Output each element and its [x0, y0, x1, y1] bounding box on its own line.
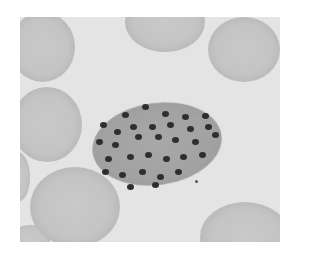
micrograph — [20, 17, 280, 242]
nucleus — [105, 156, 112, 162]
red-blood-cell — [208, 17, 280, 82]
nucleus — [180, 154, 187, 160]
nucleus — [142, 104, 149, 110]
nucleus — [119, 172, 126, 178]
nucleus — [114, 129, 121, 135]
nucleus — [127, 154, 134, 160]
nucleus — [130, 124, 137, 130]
nucleus — [199, 152, 206, 158]
red-blood-cell — [200, 202, 280, 242]
red-blood-cell — [20, 152, 30, 202]
nucleus — [202, 113, 209, 119]
nucleus — [102, 169, 109, 175]
nucleus — [149, 124, 156, 130]
nucleus — [192, 139, 199, 145]
red-blood-cell — [30, 167, 120, 242]
nucleus — [155, 134, 162, 140]
nucleus — [152, 182, 159, 188]
nucleus — [175, 169, 182, 175]
nucleus — [127, 184, 134, 190]
speck — [195, 180, 198, 183]
nucleus — [96, 139, 103, 145]
red-blood-cell — [20, 17, 75, 82]
nucleus — [145, 152, 152, 158]
nucleus — [122, 112, 129, 118]
nucleus — [212, 132, 219, 138]
nucleus — [167, 122, 174, 128]
nucleus — [135, 134, 142, 140]
nucleus — [157, 174, 164, 180]
nucleus — [100, 122, 107, 128]
nucleus — [112, 142, 119, 148]
nucleus — [172, 137, 179, 143]
nucleus — [182, 114, 189, 120]
nucleus — [139, 169, 146, 175]
nucleus — [162, 111, 169, 117]
red-blood-cell — [125, 17, 205, 52]
nucleus — [205, 124, 212, 130]
red-blood-cell — [20, 87, 82, 162]
nucleus — [163, 156, 170, 162]
nucleus — [187, 126, 194, 132]
